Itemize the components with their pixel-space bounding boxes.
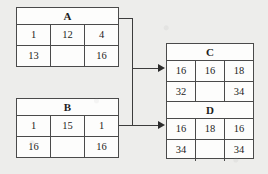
connector-a-outgoing (118, 18, 133, 19)
table-b-cell-r1c1 (51, 137, 85, 158)
table-b-cell-r1c2: 16 (85, 137, 118, 158)
table-c-cell-r0c2: 18 (225, 61, 253, 81)
table-b-cell-r0c2: 1 (85, 116, 118, 136)
table-c-cell-r0c1: 16 (196, 61, 225, 81)
table-a-cell-r0c1: 12 (51, 25, 85, 45)
table-c-header: C (167, 44, 253, 61)
table-row: 13 16 (17, 46, 118, 67)
connector-to-table-c (132, 68, 158, 69)
table-row: 16 16 18 (167, 61, 253, 82)
table-row: 16 18 16 (167, 119, 253, 140)
table-d-cell-r1c0: 34 (167, 140, 196, 161)
arrow-right-icon-to-d (158, 121, 165, 129)
connector-vertical-bus (132, 18, 133, 126)
table-a-cell-r1c2: 16 (85, 46, 118, 67)
table-c: C 16 16 18 32 34 (166, 43, 254, 102)
table-d: D 16 18 16 34 34 (166, 101, 254, 159)
table-row: 32 34 (167, 82, 253, 103)
connector-b-outgoing (118, 125, 133, 126)
arrow-right-icon-to-c (158, 64, 165, 72)
table-d-cell-r0c2: 16 (225, 119, 253, 139)
table-d-cell-r1c1 (196, 140, 225, 161)
table-c-cell-r1c0: 32 (167, 82, 196, 103)
table-c-cell-r1c1 (196, 82, 225, 103)
table-a-cell-r1c1 (51, 46, 85, 67)
table-a-cell-r0c0: 1 (17, 25, 51, 45)
table-b: B 1 15 1 16 16 (16, 98, 119, 158)
table-b-cell-r0c1: 15 (51, 116, 85, 136)
table-a-header: A (17, 8, 118, 25)
table-b-cell-r1c0: 16 (17, 137, 51, 158)
table-d-cell-r0c0: 16 (167, 119, 196, 139)
table-row: 34 34 (167, 140, 253, 161)
table-b-header: B (17, 99, 118, 116)
table-row: 1 15 1 (17, 116, 118, 137)
table-d-cell-r0c1: 18 (196, 119, 225, 139)
connector-to-table-d (132, 125, 158, 126)
table-b-cell-r0c0: 1 (17, 116, 51, 136)
table-c-cell-r0c0: 16 (167, 61, 196, 81)
table-d-cell-r1c2: 34 (225, 140, 253, 161)
diagram-canvas: A 1 12 4 13 16 B 1 15 1 16 16 C 16 16 (0, 0, 268, 174)
table-row: 16 16 (17, 137, 118, 158)
table-d-header: D (167, 102, 253, 119)
table-a-cell-r0c2: 4 (85, 25, 118, 45)
table-row: 1 12 4 (17, 25, 118, 46)
table-c-cell-r1c2: 34 (225, 82, 253, 103)
table-a-cell-r1c0: 13 (17, 46, 51, 67)
table-a: A 1 12 4 13 16 (16, 7, 119, 67)
